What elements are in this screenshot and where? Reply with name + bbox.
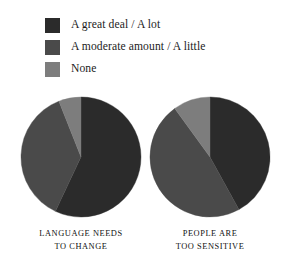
pie-charts-row: LANGUAGE NEEDS TO CHANGE PEOPLE ARE TOO … [0,96,289,278]
legend-swatch-moderate [45,40,60,55]
legend-label-none: None [71,63,97,75]
legend-item-great-deal: A great deal / A lot [45,14,275,36]
legend-item-none: None [45,58,275,80]
pie-caption-line-1: PEOPLE ARE [146,227,274,240]
pie-caption-people-are-too-sensitive: PEOPLE ARE TOO SENSITIVE [146,227,274,253]
pie-caption-line-2: TOO SENSITIVE [146,240,274,253]
pie-caption-line-1: LANGUAGE NEEDS [17,227,145,240]
pie-chart-figure: A great deal / A lot A moderate amount /… [0,0,289,278]
pie-block-language-needs-to-change: LANGUAGE NEEDS TO CHANGE [17,96,145,253]
pie-wrap-people-are-too-sensitive [146,96,274,218]
legend-label-great-deal: A great deal / A lot [71,19,160,31]
pie-caption-line-2: TO CHANGE [17,240,145,253]
pie-caption-language-needs-to-change: LANGUAGE NEEDS TO CHANGE [17,227,145,253]
legend-swatch-none [45,62,60,77]
legend-label-moderate: A moderate amount / A little [71,41,206,53]
pie-chart-language-needs-to-change [20,96,142,218]
legend-swatch-great-deal [45,18,60,33]
pie-chart-people-are-too-sensitive [149,96,271,218]
legend-item-moderate: A moderate amount / A little [45,36,275,58]
pie-block-people-are-too-sensitive: PEOPLE ARE TOO SENSITIVE [146,96,274,253]
pie-wrap-language-needs-to-change [17,96,145,218]
legend: A great deal / A lot A moderate amount /… [45,14,275,80]
